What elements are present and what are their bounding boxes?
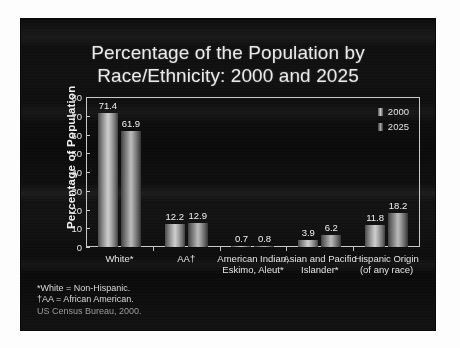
footnote-line: †AA = African American.	[37, 294, 142, 306]
bar-2025: 61.9	[121, 131, 141, 247]
bar-value-label: 3.9	[302, 228, 315, 238]
bar-value-label: 0.7	[235, 234, 248, 244]
x-axis-category-label: AA†	[149, 253, 224, 264]
bar-2000: 11.8	[365, 225, 385, 247]
legend-label: 2025	[388, 122, 409, 132]
y-axis-tick-label: 30	[56, 186, 82, 196]
bar-value-label: 71.4	[99, 101, 118, 111]
legend-item-2025[interactable]: 2025	[378, 122, 409, 132]
bar-2025: 12.9	[188, 223, 208, 247]
category-line-1: AA†	[177, 253, 195, 264]
title-line-2: Race/Ethnicity: 2000 and 2025	[21, 64, 435, 87]
category-line-1: Hispanic Origin	[354, 253, 418, 264]
y-axis-tick-label: 60	[56, 130, 82, 140]
x-axis-tick-mark	[353, 247, 354, 251]
bar-2025: 6.2	[321, 235, 341, 247]
bar-value-label: 6.2	[325, 223, 338, 233]
category-line-1: American Indian,	[217, 253, 288, 264]
x-axis-tick-mark	[153, 247, 154, 251]
bar-group: 3.96.2	[286, 97, 353, 247]
category-line-2: Islander*	[282, 264, 357, 275]
bar-group: 0.70.8	[220, 97, 287, 247]
bar-value-label: 61.9	[122, 119, 141, 129]
x-axis-category-label: White*	[82, 253, 157, 264]
page-canvas: Percentage of the Population by Race/Eth…	[0, 0, 460, 348]
bar-2000: 12.2	[165, 224, 185, 247]
bar-value-label: 12.9	[188, 211, 207, 221]
page-title: Percentage of the Population by Race/Eth…	[21, 41, 435, 87]
footnote-line: US Census Bureau, 2000.	[37, 306, 142, 318]
footnote-line: *White = Non-Hispanic.	[37, 283, 142, 295]
presentation-slide: Percentage of the Population by Race/Eth…	[21, 19, 435, 330]
legend-swatch-icon	[378, 108, 383, 116]
x-axis-tick-mark	[220, 247, 221, 251]
y-axis-tick-label: 50	[56, 149, 82, 159]
y-axis-tick-label: 20	[56, 205, 82, 215]
x-axis-category-label: American Indian,Eskimo, Aleut*	[216, 253, 291, 275]
bar-group: 12.212.9	[153, 97, 220, 247]
category-line-1: Asian and Pacific	[283, 253, 356, 264]
x-axis-category-label: Hispanic Origin(of any race)	[349, 253, 424, 275]
bar-value-label: 12.2	[165, 212, 184, 222]
bar-value-label: 0.8	[258, 234, 271, 244]
bar-chart: Percentage of Population 010203040506070…	[35, 95, 423, 287]
bar-2025: 0.8	[254, 246, 274, 248]
bar-value-label: 11.8	[366, 213, 384, 223]
category-line-2: (of any race)	[349, 264, 424, 275]
legend-item-2000[interactable]: 2000	[378, 107, 409, 117]
bar-2000: 0.7	[231, 246, 251, 247]
y-axis-tick-label: 40	[56, 168, 82, 178]
bar-group: 71.461.9	[86, 97, 153, 247]
legend-swatch-icon	[378, 123, 383, 131]
y-axis-tick-label: 10	[56, 224, 82, 234]
chart-legend: 20002025	[378, 107, 409, 137]
title-line-1: Percentage of the Population by	[91, 42, 365, 63]
legend-label: 2000	[388, 107, 409, 117]
bar-value-label: 18.2	[389, 201, 408, 211]
x-axis-category-label: Asian and PacificIslander*	[282, 253, 357, 275]
footnotes: *White = Non-Hispanic.†AA = African Amer…	[37, 283, 142, 318]
y-axis-tick-mark	[86, 247, 90, 248]
y-axis-tick-label: 70	[56, 111, 82, 121]
bar-2000: 71.4	[98, 113, 118, 247]
category-line-2: Eskimo, Aleut*	[216, 264, 291, 275]
bar-2000: 3.9	[298, 240, 318, 247]
x-axis-tick-mark	[286, 247, 287, 251]
category-line-1: White*	[105, 253, 133, 264]
bar-2025: 18.2	[388, 213, 408, 247]
y-axis-tick-label: 80	[56, 93, 82, 103]
y-axis-tick-label: 0	[56, 243, 82, 253]
